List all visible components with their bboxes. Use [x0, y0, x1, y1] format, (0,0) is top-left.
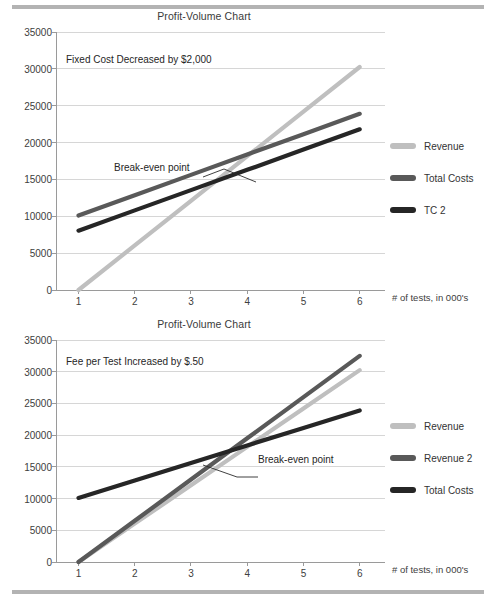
legend-item[interactable]: TC 2 — [390, 202, 473, 218]
y-axis-tick-labels-bottom: 05000100001500020000250003000035000 — [8, 340, 52, 562]
x-tick-label: 6 — [357, 296, 363, 307]
legend-item[interactable]: Revenue 2 — [390, 450, 473, 466]
y-tick-label: 15000 — [24, 461, 52, 472]
legend-swatch-icon — [390, 143, 416, 149]
legend-swatch-icon — [390, 423, 416, 429]
break-even-callout-bottom: Break-even point — [258, 454, 334, 465]
x-tick-label: 3 — [188, 296, 194, 307]
legend-item-label: Revenue — [424, 421, 464, 432]
chart-title-bottom: Profit-Volume Chart — [0, 318, 496, 330]
y-tick-label: 30000 — [24, 366, 52, 377]
chart-note-bottom: Fee per Test Increased by $.50 — [66, 356, 204, 367]
y-axis-tick-labels-top: 05000100001500020000250003000035000 — [8, 32, 52, 290]
x-tick-label: 5 — [301, 296, 307, 307]
x-tick-label: 2 — [132, 568, 138, 579]
y-tick-label: 10000 — [24, 493, 52, 504]
y-tick-label: 35000 — [24, 335, 52, 346]
x-tick-label: 2 — [132, 296, 138, 307]
x-tick-label: 1 — [76, 296, 82, 307]
y-tick-label: 25000 — [24, 100, 52, 111]
legend-swatch-icon — [390, 207, 416, 213]
profit-volume-chart-bottom: Profit-Volume Chart 05000100001500020000… — [0, 318, 496, 586]
x-axis-title-top: # of tests, in 000's — [392, 292, 468, 303]
y-tick-label: 25000 — [24, 398, 52, 409]
legend-top: RevenueTotal CostsTC 2 — [390, 138, 473, 234]
y-tick-label: 0 — [46, 285, 52, 296]
x-axis-title-bottom: # of tests, in 000's — [392, 564, 468, 575]
legend-swatch-icon — [390, 455, 416, 461]
bottom-divider-rule — [12, 590, 484, 594]
chart-note-top: Fixed Cost Decreased by $2,000 — [66, 54, 212, 65]
page-canvas: Profit-Volume Chart 05000100001500020000… — [0, 0, 496, 604]
y-tick-label: 35000 — [24, 27, 52, 38]
legend-item-label: Revenue — [424, 141, 464, 152]
top-divider-rule — [12, 5, 484, 9]
x-tick-label: 5 — [301, 568, 307, 579]
break-even-callout-top: Break-even point — [114, 162, 190, 173]
legend-item-label: Revenue 2 — [424, 453, 472, 464]
legend-item-label: Total Costs — [424, 173, 473, 184]
chart-title-top: Profit-Volume Chart — [0, 10, 496, 22]
x-tick-label: 3 — [188, 568, 194, 579]
legend-swatch-icon — [390, 175, 416, 181]
legend-swatch-icon — [390, 487, 416, 493]
legend-item[interactable]: Revenue — [390, 418, 473, 434]
legend-item-label: TC 2 — [424, 205, 446, 216]
y-tick-label: 5000 — [30, 525, 52, 536]
x-tick-label: 4 — [244, 568, 250, 579]
profit-volume-chart-top: Profit-Volume Chart 05000100001500020000… — [0, 10, 496, 310]
legend-bottom: RevenueRevenue 2Total Costs — [390, 418, 473, 514]
legend-item-label: Total Costs — [424, 485, 473, 496]
y-tick-label: 20000 — [24, 137, 52, 148]
series-line — [79, 129, 360, 230]
legend-item[interactable]: Revenue — [390, 138, 473, 154]
legend-item[interactable]: Total Costs — [390, 482, 473, 498]
y-tick-label: 30000 — [24, 63, 52, 74]
y-tick-label: 15000 — [24, 174, 52, 185]
x-tick-label: 4 — [244, 296, 250, 307]
y-tick-label: 5000 — [30, 248, 52, 259]
legend-item[interactable]: Total Costs — [390, 170, 473, 186]
plot-area-top — [56, 32, 385, 290]
x-tick-label: 6 — [357, 568, 363, 579]
plot-area-bottom — [56, 340, 385, 562]
y-tick-label: 0 — [46, 557, 52, 568]
x-tick-label: 1 — [76, 568, 82, 579]
y-tick-label: 20000 — [24, 430, 52, 441]
y-tick-label: 10000 — [24, 211, 52, 222]
